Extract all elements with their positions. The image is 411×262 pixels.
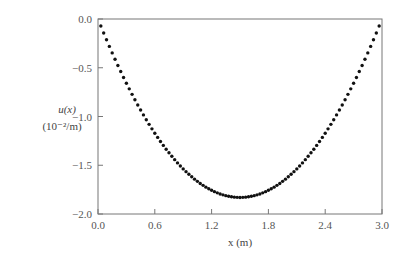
data-point bbox=[99, 24, 102, 27]
data-point bbox=[204, 185, 207, 188]
data-point bbox=[363, 58, 366, 61]
data-point bbox=[179, 164, 182, 167]
data-point bbox=[147, 123, 150, 126]
data-point bbox=[284, 177, 287, 180]
plot-frame bbox=[98, 19, 382, 214]
data-point bbox=[164, 147, 167, 150]
chart: 0.00.61.21.82.43.00.0−0.5−1.0−1.5−2.0 u(… bbox=[0, 0, 411, 262]
data-point bbox=[125, 82, 128, 85]
y-tick-label: 0.0 bbox=[78, 13, 92, 25]
x-tick-label: 0.6 bbox=[148, 219, 162, 231]
data-point bbox=[281, 180, 284, 183]
data-point bbox=[136, 103, 139, 106]
data-point bbox=[173, 158, 176, 161]
data-point bbox=[247, 195, 250, 198]
data-point bbox=[278, 182, 281, 185]
data-point bbox=[298, 164, 301, 167]
y-tick-label: −2.0 bbox=[72, 208, 92, 220]
data-point bbox=[156, 136, 159, 139]
data-point bbox=[150, 127, 153, 130]
data-point bbox=[287, 175, 290, 178]
data-point bbox=[182, 167, 185, 170]
x-axis-label: x (m) bbox=[228, 236, 252, 249]
data-point bbox=[346, 93, 349, 96]
data-point bbox=[199, 182, 202, 185]
data-point bbox=[304, 158, 307, 161]
data-point bbox=[184, 170, 187, 173]
data-point bbox=[289, 173, 292, 176]
data-point bbox=[355, 76, 358, 79]
data-point bbox=[111, 51, 114, 54]
data-point bbox=[366, 51, 369, 54]
data-point bbox=[201, 184, 204, 187]
data-point bbox=[224, 194, 227, 197]
data-point bbox=[341, 103, 344, 106]
data-point bbox=[372, 38, 375, 41]
data-point bbox=[119, 70, 122, 73]
data-point bbox=[295, 167, 298, 170]
data-point bbox=[312, 147, 315, 150]
data-point bbox=[369, 45, 372, 48]
data-point bbox=[105, 38, 108, 41]
data-points bbox=[99, 24, 381, 199]
data-point bbox=[227, 195, 230, 198]
data-point bbox=[329, 123, 332, 126]
data-point bbox=[139, 108, 142, 111]
data-point bbox=[301, 161, 304, 164]
data-point bbox=[306, 155, 309, 158]
x-tick-label: 1.8 bbox=[262, 219, 276, 231]
data-point bbox=[377, 24, 380, 27]
data-point bbox=[116, 64, 119, 67]
data-point bbox=[318, 140, 321, 143]
data-point bbox=[153, 131, 156, 134]
data-point bbox=[142, 113, 145, 116]
data-point bbox=[321, 136, 324, 139]
data-point bbox=[113, 58, 116, 61]
data-point bbox=[122, 76, 125, 79]
plot-axes: 0.00.61.21.82.43.00.0−0.5−1.0−1.5−2.0 bbox=[72, 13, 389, 231]
data-point bbox=[250, 195, 253, 198]
data-point bbox=[162, 144, 165, 147]
x-tick-label: 0.0 bbox=[91, 219, 105, 231]
data-point bbox=[167, 151, 170, 154]
data-point bbox=[309, 151, 312, 154]
data-point bbox=[108, 45, 111, 48]
data-point bbox=[176, 161, 179, 164]
data-point bbox=[352, 82, 355, 85]
data-point bbox=[324, 131, 327, 134]
data-point bbox=[190, 175, 193, 178]
data-point bbox=[360, 64, 363, 67]
data-point bbox=[145, 118, 148, 121]
data-point bbox=[272, 185, 275, 188]
data-point bbox=[170, 155, 173, 158]
data-point bbox=[275, 184, 278, 187]
data-point bbox=[102, 31, 105, 34]
data-point bbox=[270, 187, 273, 190]
data-point bbox=[196, 180, 199, 183]
data-point bbox=[343, 98, 346, 101]
x-tick-label: 3.0 bbox=[375, 219, 389, 231]
y-tick-label: −0.5 bbox=[72, 62, 92, 74]
x-tick-label: 1.2 bbox=[205, 219, 219, 231]
data-point bbox=[130, 93, 133, 96]
data-point bbox=[338, 108, 341, 111]
data-point bbox=[332, 118, 335, 121]
y-axis-label-line1: u(x) bbox=[58, 103, 76, 116]
y-axis-label-line2: (10⁻²/m) bbox=[42, 120, 82, 133]
data-point bbox=[335, 113, 338, 116]
data-point bbox=[315, 144, 318, 147]
data-point bbox=[159, 140, 162, 143]
data-point bbox=[358, 70, 361, 73]
data-point bbox=[193, 177, 196, 180]
x-tick-label: 2.4 bbox=[318, 219, 332, 231]
data-point bbox=[326, 127, 329, 130]
data-point bbox=[187, 173, 190, 176]
data-point bbox=[128, 87, 131, 90]
data-point bbox=[375, 31, 378, 34]
data-point bbox=[349, 87, 352, 90]
data-point bbox=[133, 98, 136, 101]
data-point bbox=[292, 170, 295, 173]
y-tick-label: −1.5 bbox=[72, 159, 92, 171]
